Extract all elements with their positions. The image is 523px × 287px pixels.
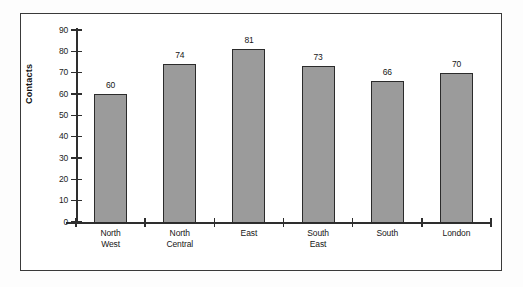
y-axis-tick-label: 30 — [44, 154, 68, 163]
y-axis-tick — [71, 157, 82, 158]
x-axis-category-label: East — [215, 228, 283, 239]
x-axis-category-label: NorthCentral — [146, 228, 214, 250]
y-axis-tick-label: 40 — [44, 132, 68, 141]
plot-area: Contacts 0102030405060708090 60748173667… — [0, 0, 523, 287]
category-label-line1: North — [100, 228, 120, 238]
category-label-line1: East — [241, 228, 258, 238]
y-axis-tick — [71, 51, 82, 52]
y-axis-tick-label: 10 — [44, 196, 68, 205]
y-axis-tick-label: 0 — [44, 218, 68, 227]
bar-value-label: 70 — [436, 60, 476, 69]
x-axis-category-label: London — [422, 228, 490, 239]
bar-value-label: 81 — [229, 36, 269, 45]
x-axis-tick — [283, 218, 284, 227]
y-axis-tick-label-text: 70 — [46, 68, 68, 77]
bar-value-label: 66 — [367, 68, 407, 77]
x-axis-tick — [144, 218, 145, 227]
category-label-line2: East — [284, 239, 352, 250]
y-axis-tick-label-text: 50 — [46, 111, 68, 120]
category-label-line1: North — [170, 228, 190, 238]
y-axis-tick-label-text: 60 — [46, 90, 68, 99]
x-axis-category-label: NorthWest — [77, 228, 145, 250]
category-label-line2: West — [77, 239, 145, 250]
y-axis-tick-label: 20 — [44, 175, 68, 184]
bar-value-label: 73 — [298, 53, 338, 62]
y-axis-tick — [71, 179, 82, 180]
category-label-line1: South — [376, 228, 398, 238]
y-axis-tick — [71, 115, 82, 116]
category-label-line1: London — [443, 228, 471, 238]
x-axis-tick — [490, 218, 491, 227]
y-axis-tick-label-text: 90 — [46, 26, 68, 35]
bar-value-label: 74 — [160, 51, 200, 60]
y-axis-tick — [71, 93, 82, 94]
category-label-line2: Central — [146, 239, 214, 250]
bar — [371, 81, 404, 223]
y-axis-tick-label: 70 — [44, 68, 68, 77]
bar — [232, 49, 265, 223]
y-axis-tick-label: 50 — [44, 111, 68, 120]
category-label-line1: South — [307, 228, 329, 238]
y-axis-tick-label: 80 — [44, 47, 68, 56]
x-axis-category-label: SouthEast — [284, 228, 352, 250]
bar — [302, 66, 335, 223]
y-axis-tick — [71, 29, 82, 30]
y-axis-tick-label-text: 40 — [46, 132, 68, 141]
x-axis-tick — [75, 218, 76, 227]
y-axis-tick-label-text: 80 — [46, 47, 68, 56]
y-axis-tick-label-text: 10 — [46, 196, 68, 205]
x-axis-tick — [214, 218, 215, 227]
y-axis-tick-label-text: 20 — [46, 175, 68, 184]
y-axis-tick-label-text: 30 — [46, 154, 68, 163]
x-axis-tick — [421, 218, 422, 227]
y-axis-tick-label-text: 0 — [46, 218, 68, 227]
y-axis-title: Contacts — [24, 64, 34, 104]
y-axis-tick — [71, 200, 82, 201]
bar — [163, 64, 196, 223]
bar — [440, 73, 473, 223]
x-axis-category-label: South — [353, 228, 421, 239]
chart-page: Contacts 0102030405060708090 60748173667… — [0, 0, 523, 287]
y-axis-tick — [71, 136, 82, 137]
x-axis-tick — [352, 218, 353, 227]
y-axis-line — [76, 28, 78, 223]
bar — [94, 94, 127, 223]
y-axis-tick-label: 60 — [44, 90, 68, 99]
y-axis-tick-label: 90 — [44, 26, 68, 35]
x-axis-line — [66, 222, 491, 224]
bar-value-label: 60 — [91, 81, 131, 90]
y-axis-tick — [71, 72, 82, 73]
